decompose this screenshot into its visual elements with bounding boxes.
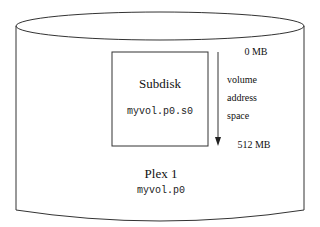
address-start-label: 0 MB [244,46,267,57]
plex-title: Plex 1 [145,166,178,181]
address-caption-line-2: address [227,92,257,103]
address-caption-line-1: volume [227,74,258,85]
cylinder-bottom-curve [16,210,304,221]
address-caption-line-3: space [227,110,250,121]
cylinder-top-ellipse [16,12,304,40]
plex-diagram: Subdisk myvol.p0.s0 0 MB volume address … [0,0,320,227]
plex-name: myvol.p0 [137,185,185,196]
address-end-label: 512 MB [237,139,270,150]
subdisk-box [112,52,208,146]
subdisk-name: myvol.p0.s0 [127,106,193,117]
subdisk-title: Subdisk [139,76,181,91]
address-arrow-icon [215,52,221,146]
